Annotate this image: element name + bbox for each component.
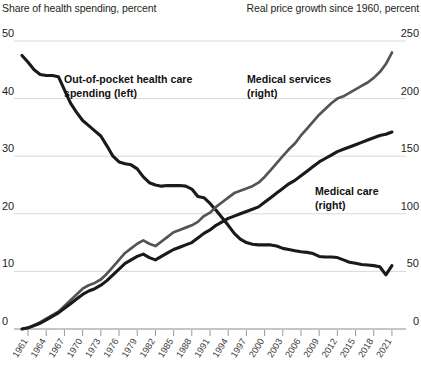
x-axis-tick-label: 2000 [247, 337, 266, 360]
x-axis-tick-label: 1997 [229, 337, 248, 360]
left-axis-tick-label: 20 [2, 200, 14, 212]
annotation-out-of-pocket-line2: spending (left) [64, 87, 192, 101]
right-axis-tick-labels: 050100150200250 [401, 27, 419, 327]
x-axis-tick-label: 2006 [283, 337, 302, 360]
x-axis-tick-label: 1964 [29, 337, 48, 360]
x-axis-tick-label: 2009 [302, 337, 321, 360]
series-line-3 [22, 132, 392, 329]
right-axis-tick-label: 250 [401, 27, 419, 39]
left-axis-tick-labels: 01020304050 [2, 27, 14, 327]
x-axis-tick-label: 1985 [156, 337, 175, 360]
annotation-medical-services: Medical services (right) [247, 73, 331, 100]
annotation-medical-care-line2: (right) [315, 199, 379, 213]
x-axis-tick-label: 1982 [138, 337, 157, 360]
x-axis-tick-label: 1994 [211, 337, 230, 360]
right-axis-tick-label: 0 [413, 315, 419, 327]
chart-container: Share of health spending, percent Real p… [0, 0, 421, 375]
right-axis-tick-label: 100 [401, 200, 419, 212]
x-axis-tick-label: 1979 [120, 337, 139, 360]
x-axis-tick-label: 1973 [83, 337, 102, 360]
x-axis-tick-label: 2012 [320, 337, 339, 360]
left-axis-tick-label: 10 [2, 257, 14, 269]
annotation-medical-care: Medical care (right) [315, 185, 379, 212]
x-axis-tick-labels: 1961196419671970197319761979198219851988… [10, 337, 393, 360]
x-axis-tick-label: 1970 [65, 337, 84, 360]
x-axis-tick-label: 1991 [192, 337, 211, 360]
right-axis-tick-label: 150 [401, 142, 419, 154]
left-axis-tick-label: 30 [2, 142, 14, 154]
left-axis-tick-label: 40 [2, 85, 14, 97]
x-axis-tick-label: 1988 [174, 337, 193, 360]
annotation-medical-care-line1: Medical care [315, 185, 379, 199]
x-axis-tick-label: 1961 [10, 337, 29, 360]
x-axis-tick-marks [28, 330, 392, 336]
x-axis-tick-label: 1976 [101, 337, 120, 360]
annotation-out-of-pocket: Out-of-pocket health care spending (left… [64, 73, 192, 100]
left-axis-tick-label: 0 [2, 315, 8, 327]
x-axis-tick-label: 1967 [47, 337, 66, 360]
x-axis-tick-label: 2015 [338, 337, 357, 360]
annotation-medical-services-line2: (right) [247, 87, 331, 101]
x-axis-tick-label: 2003 [265, 337, 284, 360]
right-axis-tick-label: 200 [401, 85, 419, 97]
annotation-out-of-pocket-line1: Out-of-pocket health care [64, 73, 192, 87]
annotation-medical-services-line1: Medical services [247, 73, 331, 87]
x-axis-tick-label: 2021 [374, 337, 393, 360]
right-axis-tick-label: 50 [407, 257, 419, 269]
x-axis-tick-label: 2018 [356, 337, 375, 360]
left-axis-tick-label: 50 [2, 27, 14, 39]
